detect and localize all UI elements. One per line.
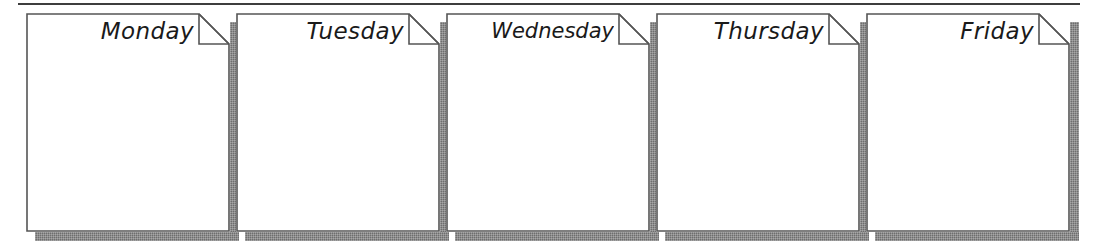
card-note-body[interactable] xyxy=(238,53,438,230)
card-label: Monday xyxy=(26,15,194,47)
card-shadow-bottom xyxy=(875,232,1079,241)
card-label: Wednesday xyxy=(446,15,614,47)
note-card-tuesday[interactable]: Tuesday xyxy=(236,13,440,232)
note-card-monday[interactable]: Monday xyxy=(26,13,230,232)
card-shadow-bottom xyxy=(665,232,869,241)
card-shadow-bottom xyxy=(35,232,239,241)
card-shadow-right xyxy=(1070,22,1079,241)
card-label: Friday xyxy=(866,15,1034,47)
note-card-thursday[interactable]: Thursday xyxy=(656,13,860,232)
card-shadow-bottom xyxy=(245,232,449,241)
card-label: Tuesday xyxy=(236,15,404,47)
card-shadow-bottom xyxy=(455,232,659,241)
note-card-wednesday[interactable]: Wednesday xyxy=(446,13,650,232)
card-note-body[interactable] xyxy=(658,53,858,230)
card-note-body[interactable] xyxy=(448,53,648,230)
note-card-friday[interactable]: Friday xyxy=(866,13,1070,232)
card-note-body[interactable] xyxy=(28,53,228,230)
note-cards-board: Monday Tuesday xyxy=(0,0,1097,251)
card-label: Thursday xyxy=(656,15,824,47)
planner-canvas: Monday Tuesday xyxy=(0,0,1097,251)
card-note-body[interactable] xyxy=(868,53,1068,230)
